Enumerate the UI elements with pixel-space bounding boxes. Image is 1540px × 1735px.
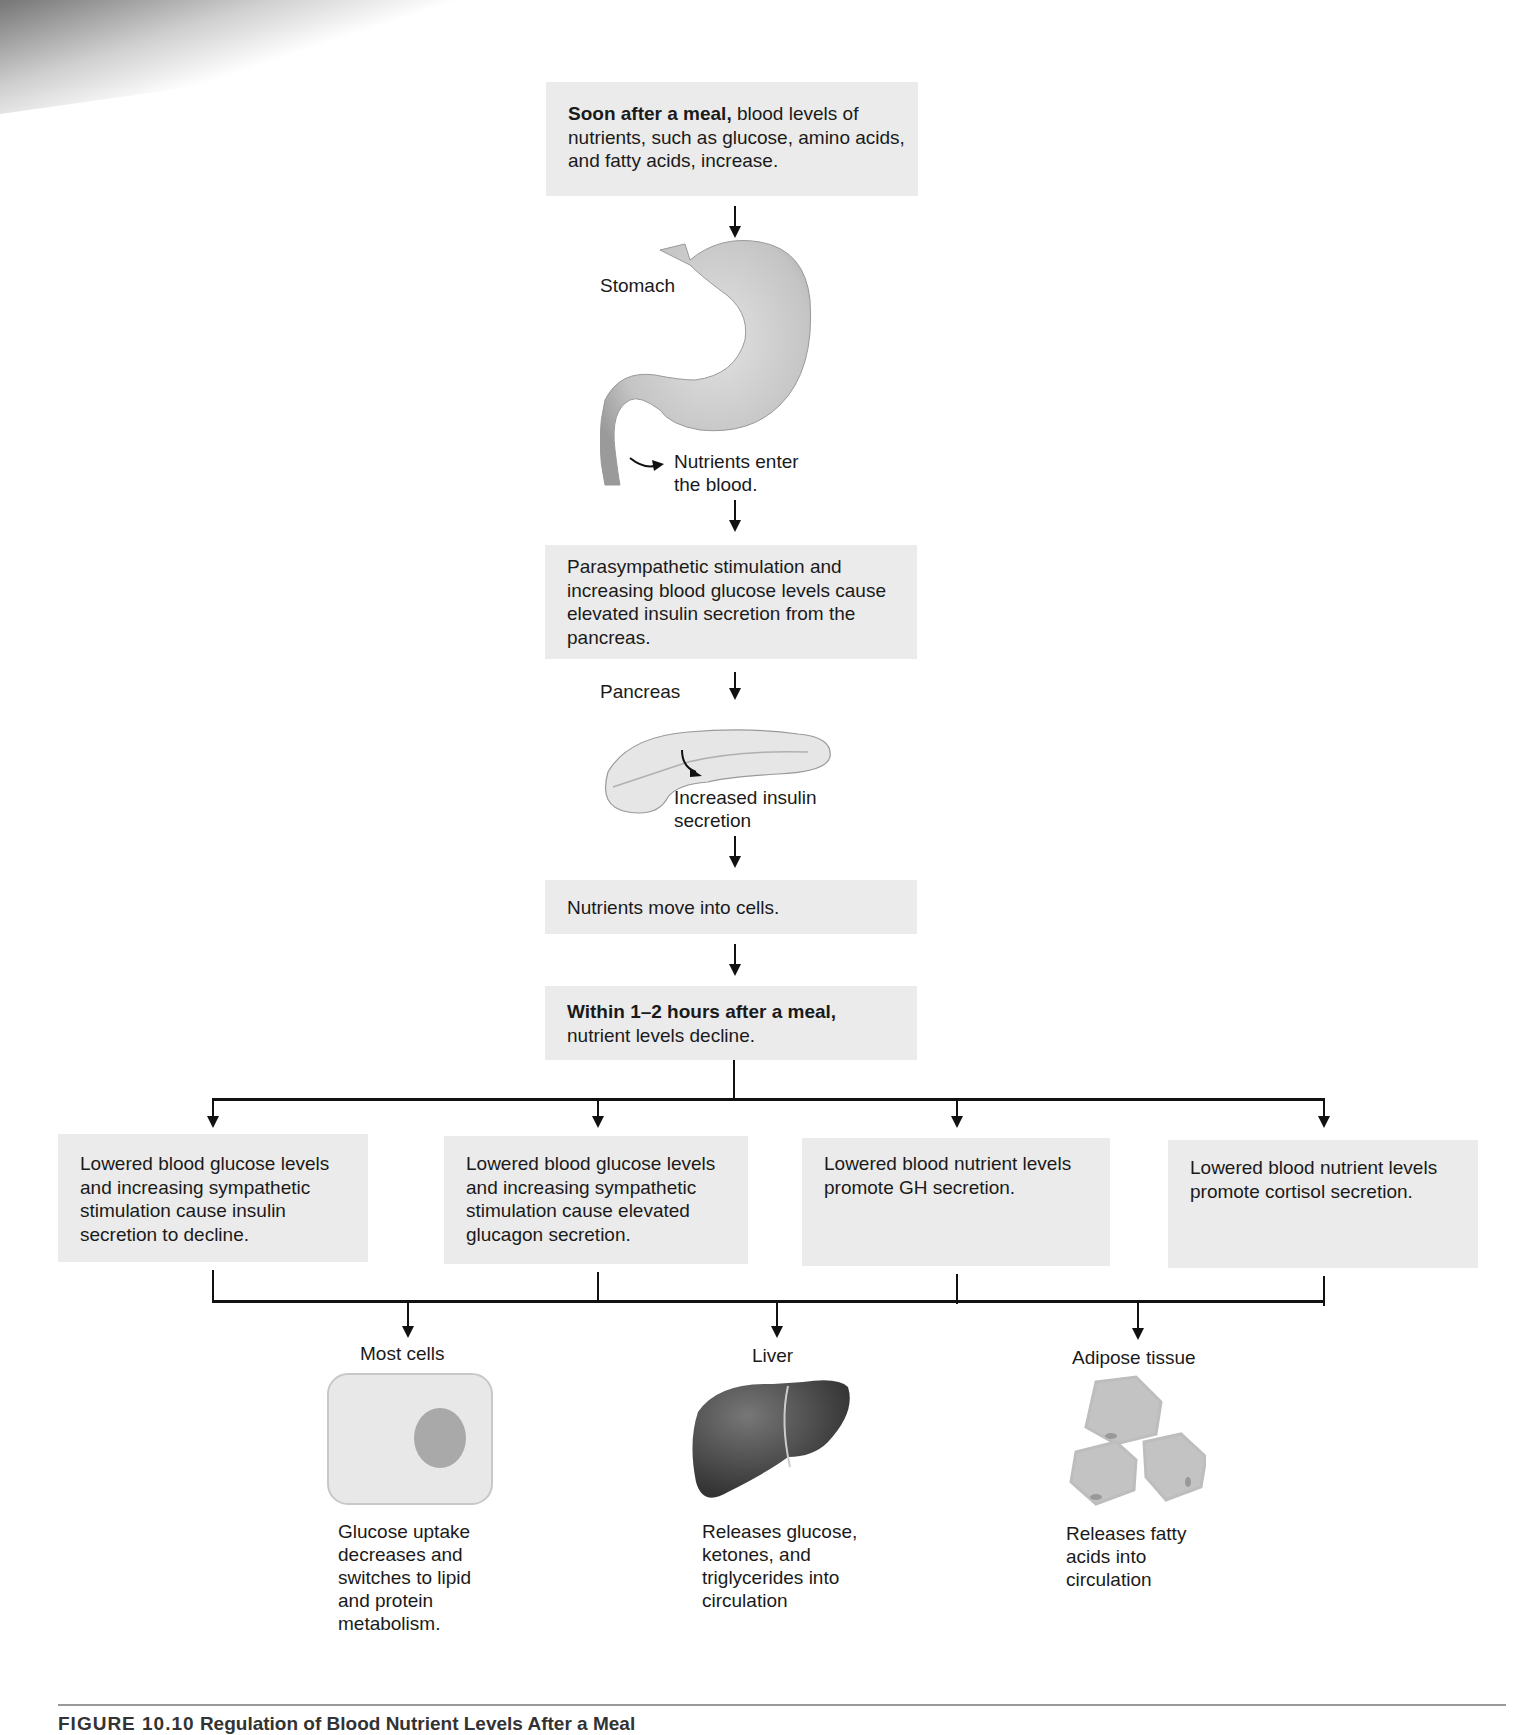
arrow-target-3 (1137, 1302, 1139, 1338)
cell-illustration (326, 1372, 496, 1508)
branch-box-insulin-decline: Lowered blood glucose levels and increas… (58, 1134, 368, 1262)
step-meal-box: Soon after a meal, blood levels of nutri… (546, 82, 918, 196)
step-meal-bold: Soon after a meal, (568, 103, 732, 124)
target-effect-liver: Releases glucose, ketones, and triglycer… (702, 1520, 882, 1612)
liver-illustration (688, 1372, 858, 1508)
arrow-down-5 (734, 944, 736, 974)
target-effect-adipose: Releases fatty acids into circulation (1066, 1522, 1206, 1591)
branch-box-glucagon: Lowered blood glucose levels and increas… (444, 1136, 748, 1264)
branch-text: Lowered blood nutrient levels promote co… (1190, 1157, 1437, 1202)
figure-caption: FIGURE 10.10 Regulation of Blood Nutrien… (58, 1713, 635, 1735)
insulin-secretion-label: Increased insulin secretion (674, 786, 844, 832)
branch-box-gh: Lowered blood nutrient levels promote GH… (802, 1138, 1110, 1266)
step-decline-bold: Within 1–2 hours after a meal, (567, 1000, 917, 1024)
pancreas-label: Pancreas (600, 680, 680, 703)
arrow-target-2 (776, 1302, 778, 1336)
target-label-liver: Liver (752, 1344, 793, 1367)
figure-number: FIGURE 10.10 (58, 1713, 195, 1734)
arrow-target-1 (407, 1302, 409, 1336)
branch-text: Lowered blood glucose levels and increas… (466, 1153, 715, 1245)
arrow-branch-2 (597, 1100, 599, 1126)
target-label-adipose: Adipose tissue (1072, 1346, 1196, 1369)
step-insulin-box: Parasympathetic stimulation and increasi… (545, 545, 917, 659)
caption-rule (58, 1704, 1506, 1706)
target-effect-most-cells: Glucose uptake decreases and switches to… (338, 1520, 498, 1635)
arrow-branch-4 (1323, 1100, 1325, 1126)
arrow-branch-3 (956, 1100, 958, 1126)
step-decline-box: Within 1–2 hours after a meal, nutrient … (545, 986, 917, 1060)
target-label-most-cells: Most cells (360, 1342, 444, 1365)
adipose-illustration (1066, 1372, 1206, 1512)
arrow-down-3 (734, 672, 736, 698)
connector-bottom-bar (212, 1300, 1325, 1303)
step-cells-text: Nutrients move into cells. (567, 897, 779, 918)
step-insulin-text: Parasympathetic stimulation and increasi… (567, 556, 886, 648)
branch-box-cortisol: Lowered blood nutrient levels promote co… (1168, 1140, 1478, 1268)
figure-title: Regulation of Blood Nutrient Levels Afte… (200, 1713, 635, 1734)
nutrients-enter-label: Nutrients enter the blood. (674, 450, 824, 496)
branch-text: Lowered blood nutrient levels promote GH… (824, 1153, 1071, 1198)
step-cells-box: Nutrients move into cells. (545, 880, 917, 934)
connector-top-bar (212, 1098, 1325, 1101)
connector-drop-2 (597, 1272, 599, 1302)
arrow-down-2 (734, 500, 736, 530)
connector-drop-1 (212, 1270, 214, 1302)
arrow-branch-1 (212, 1100, 214, 1126)
arrow-down-4 (734, 836, 736, 866)
step-decline-text: nutrient levels decline. (567, 1025, 755, 1046)
branch-text: Lowered blood glucose levels and increas… (80, 1153, 329, 1245)
connector-stem (733, 1060, 735, 1100)
